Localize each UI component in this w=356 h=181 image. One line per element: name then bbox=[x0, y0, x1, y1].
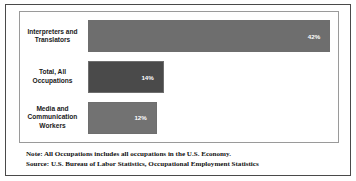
footnote-note: Note: All Occupations includes all occup… bbox=[26, 149, 336, 159]
category-label-line: Total, All bbox=[39, 68, 66, 75]
category-label-line: Media and bbox=[36, 105, 68, 112]
category-label-line: Workers bbox=[39, 122, 65, 129]
bar-track: 14% bbox=[88, 57, 339, 98]
category-label-line: Translators bbox=[35, 36, 71, 43]
category-label-line: Communication bbox=[28, 113, 78, 120]
bar-row: Interpreters and Translators 42% bbox=[19, 16, 339, 57]
bar-interpreters-and-translators: 42% bbox=[88, 20, 330, 52]
category-label-line: Occupations bbox=[33, 77, 73, 84]
bar-total-all-occupations: 14% bbox=[88, 61, 164, 93]
category-label-interpreters-and-translators: Interpreters and Translators bbox=[19, 28, 88, 45]
bar-media-and-communication-workers: 12% bbox=[88, 102, 157, 134]
bar-row: Total, All Occupations 14% bbox=[19, 57, 339, 98]
category-label-media-and-communication-workers: Media and Communication Workers bbox=[19, 105, 88, 131]
footnote-source: Source: U.S. Bureau of Labor Statistics,… bbox=[26, 159, 336, 169]
bar-value-label: 14% bbox=[141, 74, 162, 81]
bar-track: 42% bbox=[88, 16, 339, 57]
category-label-total-all-occupations: Total, All Occupations bbox=[19, 68, 88, 85]
bar-chart-figure: Interpreters and Translators 42% Total, … bbox=[0, 0, 356, 181]
bar-rows-container: Interpreters and Translators 42% Total, … bbox=[19, 11, 339, 143]
category-label-line: Interpreters and bbox=[27, 28, 77, 35]
bar-value-label: 12% bbox=[134, 114, 155, 121]
bar-row: Media and Communication Workers 12% bbox=[19, 97, 339, 138]
bar-value-label: 42% bbox=[308, 33, 329, 40]
bar-track: 12% bbox=[88, 97, 339, 138]
footnotes: Note: All Occupations includes all occup… bbox=[26, 149, 336, 170]
